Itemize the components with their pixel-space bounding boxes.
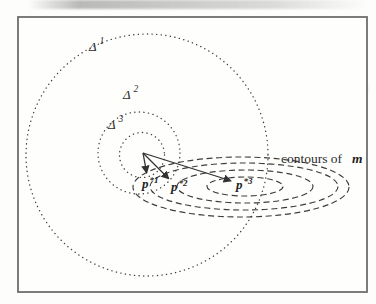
contours-of-m-symbol: m	[352, 151, 363, 166]
contours-of-caption: contours of	[281, 151, 343, 166]
delta3-superscript: 3	[118, 114, 124, 124]
p-star-2-label: p	[170, 179, 178, 194]
p-star-3-superscript: *3	[244, 176, 254, 186]
p-star-1-label: p	[141, 176, 149, 191]
trust-region-diagram: Δ 1 Δ 2 Δ 3 p *1 p *2 p *3 contours of m	[0, 0, 376, 304]
p-star-3-label: p	[235, 177, 243, 192]
scanned-figure: Δ 1 Δ 2 Δ 3 p *1 p *2 p *3 contours of m	[0, 0, 376, 304]
delta1-superscript: 1	[100, 36, 105, 46]
delta2-label: Δ	[122, 87, 131, 102]
delta2-superscript: 2	[134, 84, 139, 94]
p-star-2-superscript: *2	[179, 178, 189, 188]
delta3-label: Δ	[107, 117, 116, 132]
p-star-1-superscript: *1	[150, 175, 159, 185]
delta1-label: Δ	[88, 39, 97, 54]
